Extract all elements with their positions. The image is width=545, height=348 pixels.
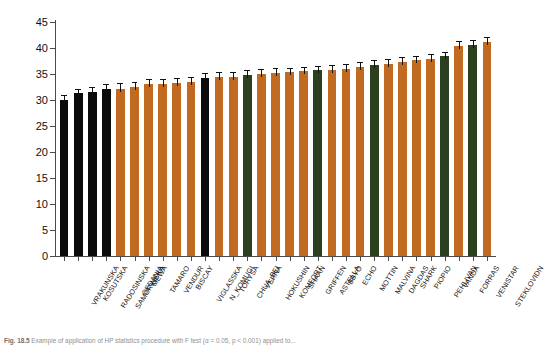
x-axis-tick: [445, 257, 446, 261]
x-axis-tick: [473, 257, 474, 261]
x-axis-tick: [78, 257, 79, 261]
x-axis-tick: [106, 257, 107, 261]
x-axis-tick: [374, 257, 375, 261]
y-axis-tick: [50, 100, 55, 101]
x-axis-tick: [487, 257, 488, 261]
caption-text: Example of application of HP statistics …: [31, 337, 295, 344]
x-axis-tick: [247, 257, 248, 261]
y-axis-tick: [50, 204, 55, 205]
y-axis-tick: [50, 178, 55, 179]
x-axis-tick: [205, 257, 206, 261]
y-axis-tick: [50, 22, 55, 23]
x-axis-tick: [402, 257, 403, 261]
x-axis-tick: [92, 257, 93, 261]
x-axis-tick: [304, 257, 305, 261]
caption-number: Fig. 18.5: [4, 337, 30, 344]
x-axis-tick: [431, 257, 432, 261]
y-axis-tick: [50, 152, 55, 153]
x-axis-tick: [120, 257, 121, 261]
x-axis-tick: [290, 257, 291, 261]
x-axis-tick: [135, 257, 136, 261]
x-axis-tick: [261, 257, 262, 261]
y-axis-tick: [50, 126, 55, 127]
y-axis-tick: [50, 48, 55, 49]
x-axis-tick: [332, 257, 333, 261]
y-axis-tick: [50, 74, 55, 75]
x-axis-tick: [459, 257, 460, 261]
y-axis-tick: [50, 256, 55, 257]
x-axis-tick: [388, 257, 389, 261]
x-axis-tick: [360, 257, 361, 261]
x-axis-tick: [163, 257, 164, 261]
x-axis-tick: [177, 257, 178, 261]
x-axis-tick: [318, 257, 319, 261]
x-axis-tick: [346, 257, 347, 261]
y-axis-tick: [50, 230, 55, 231]
figure-caption: Fig. 18.5 Example of application of HP s…: [4, 337, 507, 345]
x-axis-tick: [233, 257, 234, 261]
x-axis-tick: [149, 257, 150, 261]
x-axis-tick: [276, 257, 277, 261]
x-axis-tick: [219, 257, 220, 261]
x-axis-tick: [64, 257, 65, 261]
x-axis-tick: [416, 257, 417, 261]
x-axis-tick: [191, 257, 192, 261]
